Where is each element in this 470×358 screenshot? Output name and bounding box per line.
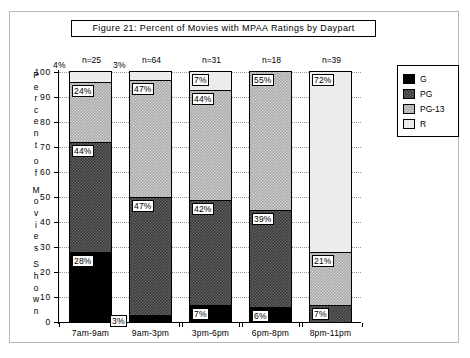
bar-segment-value-label: 39%: [252, 213, 274, 225]
bar-segment-pg13[interactable]: 47%: [130, 80, 171, 198]
bar-segment-r[interactable]: 72%: [310, 72, 351, 252]
bar-segment-value-label: 7%: [312, 308, 329, 320]
y-axis-tick-label: 40: [40, 218, 51, 226]
x-axis-line: [58, 322, 361, 323]
bar-segment-g[interactable]: 3%: [130, 315, 171, 323]
bar-segment-pg[interactable]: 42%: [190, 200, 231, 305]
legend-item-pg[interactable]: PG: [403, 86, 454, 101]
y-axis-tick-mark: [54, 172, 58, 173]
bar-segment-pg13[interactable]: 21%: [310, 252, 351, 305]
x-axis-tick-mark: [299, 323, 300, 327]
legend: GPGPG-13R: [397, 65, 459, 137]
bar-segment-value-label: 47%: [132, 200, 154, 212]
stacked-bar[interactable]: n=254%24%44%28%: [69, 71, 112, 322]
y-axis-tick-mark: [54, 122, 58, 123]
legend-swatch-icon: [403, 119, 415, 129]
legend-item-pg13[interactable]: PG-13: [403, 101, 454, 116]
bar-segment-pg[interactable]: 7%: [310, 305, 351, 323]
bar-segment-r[interactable]: 3%: [130, 72, 171, 80]
y-axis-tick-label: 70: [40, 143, 51, 151]
bar-segment-value-label: 55%: [252, 74, 274, 86]
bar-sample-size-label: n=25: [70, 55, 113, 65]
stacked-bar[interactable]: n=3972%21%7%: [309, 71, 352, 322]
legend-swatch-icon: [403, 89, 415, 99]
bar-segment-value-label: 21%: [312, 255, 334, 267]
bar-segment-pg13[interactable]: 24%: [70, 82, 111, 142]
y-axis-tick-mark: [54, 247, 58, 248]
stacked-bar[interactable]: n=1855%39%6%: [249, 71, 292, 322]
x-axis-tick-mark: [242, 323, 243, 327]
y-axis-tick-mark: [54, 147, 58, 148]
y-axis-caption-letter: c: [30, 105, 42, 117]
y-axis-tick-label: 30: [40, 243, 51, 251]
legend-item-label: PG: [420, 89, 432, 99]
y-axis-tick-mark: [54, 197, 58, 198]
bar-sample-size-label: n=18: [250, 55, 293, 65]
bar-segment-value-label: 28%: [72, 255, 94, 267]
y-axis-caption-letter: n: [30, 128, 42, 140]
bar-segment-value-label: 7%: [192, 74, 209, 86]
legend-item-label: PG-13: [420, 104, 445, 114]
bar-segment-value-label: 7%: [192, 308, 209, 320]
legend-item-g[interactable]: G: [403, 71, 454, 86]
bar-segment-value-label: 3%: [112, 60, 127, 70]
x-axis-category-label: 8pm-11pm: [296, 328, 366, 338]
chart-title: Figure 21: Percent of Movies with MPAA R…: [71, 20, 376, 37]
y-axis-tick-mark: [54, 72, 58, 73]
bar-segment-pg[interactable]: 44%: [70, 142, 111, 252]
bar-segment-value-label: 44%: [72, 145, 94, 157]
legend-item-label: R: [420, 119, 426, 129]
x-axis-tick-mark: [239, 323, 240, 327]
x-axis-tick-mark: [59, 323, 60, 327]
bar-sample-size-label: n=64: [130, 55, 173, 65]
y-axis-tick-mark: [54, 272, 58, 273]
y-axis-tick-mark: [54, 97, 58, 98]
stacked-bar[interactable]: n=317%44%42%7%: [189, 71, 232, 322]
y-axis-tick-mark: [54, 297, 58, 298]
legend-item-r[interactable]: R: [403, 116, 454, 131]
y-axis-tick-label: 10: [40, 293, 51, 301]
y-axis-caption-letter: e: [30, 231, 42, 243]
bar-sample-size-label: n=39: [310, 55, 353, 65]
bar-sample-size-label: n=31: [190, 55, 233, 65]
stacked-bar[interactable]: n=643%47%47%3%: [129, 71, 172, 322]
y-axis-tick-label: 90: [40, 93, 51, 101]
plot-area: 0102030405060708090100 n=254%24%44%28%n=…: [58, 72, 361, 322]
bar-segment-pg[interactable]: 39%: [250, 210, 291, 308]
bar-segment-value-label: 44%: [192, 93, 214, 105]
y-axis-tick-mark: [54, 322, 58, 323]
y-axis-tick-mark: [54, 222, 58, 223]
y-axis-tick-label: 0: [45, 318, 51, 326]
y-axis-tick-label: 80: [40, 118, 51, 126]
y-axis-tick-label: 60: [40, 168, 51, 176]
x-axis-tick-mark: [182, 323, 183, 327]
bar-segment-g[interactable]: 6%: [250, 307, 291, 322]
bar-segment-value-label: 42%: [192, 203, 214, 215]
bar-segment-value-label: 4%: [52, 60, 67, 70]
bar-segment-r[interactable]: 7%: [190, 72, 231, 90]
x-axis-tick-mark: [362, 323, 363, 327]
y-axis-caption-letter: n: [30, 306, 42, 318]
bar-segment-g[interactable]: 28%: [70, 252, 111, 322]
bar-segment-g[interactable]: 7%: [190, 305, 231, 323]
bar-segment-r[interactable]: 4%: [70, 72, 111, 82]
x-axis-tick-mark: [179, 323, 180, 327]
y-axis-tick-label: 100: [34, 68, 51, 76]
legend-swatch-icon: [403, 74, 415, 84]
y-axis-tick-label: 50: [40, 193, 51, 201]
figure-frame: Figure 21: Percent of Movies with MPAA R…: [9, 11, 459, 343]
y-axis-tick-label: 20: [40, 268, 51, 276]
bar-segment-pg13[interactable]: 44%: [190, 90, 231, 200]
bar-segment-value-label: 72%: [312, 74, 334, 86]
bar-segment-pg13[interactable]: 55%: [250, 72, 291, 210]
legend-swatch-icon: [403, 104, 415, 114]
legend-item-label: G: [420, 74, 427, 84]
bar-segment-value-label: 47%: [132, 83, 154, 95]
bar-segment-pg[interactable]: 47%: [130, 197, 171, 315]
bar-segment-value-label: 24%: [72, 85, 94, 97]
bar-segment-value-label: 3%: [110, 315, 127, 327]
bar-segment-value-label: 6%: [252, 310, 269, 322]
x-axis-tick-mark: [302, 323, 303, 327]
